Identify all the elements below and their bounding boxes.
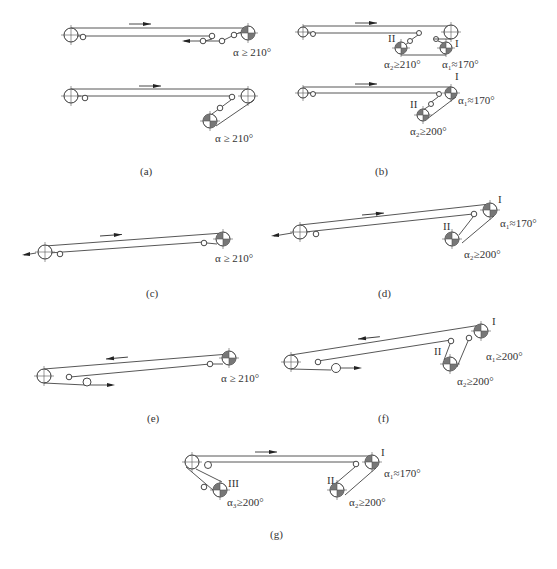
- angle-label: α ≥ 210°: [215, 252, 253, 264]
- panel-caption: (f): [378, 412, 389, 425]
- idler-icon: [82, 95, 88, 101]
- belt-direction-arrow-icon: [22, 252, 30, 256]
- belt-direction-arrow-icon: [107, 383, 115, 387]
- idler-icon: [408, 39, 413, 44]
- alpha2-label: α₂≥210°: [384, 58, 421, 70]
- tail-pulley-icon: [182, 452, 202, 472]
- panel-c: α ≥ 210° (c): [22, 229, 253, 300]
- drive-pulley-icon: [219, 348, 239, 368]
- alpha1-label: α₁≈170°: [458, 94, 495, 106]
- drive-III-label: III: [228, 477, 239, 489]
- idler-icon: [466, 335, 472, 341]
- belt-direction-arrow-icon: [100, 232, 122, 238]
- belt-direction-arrow-icon: [271, 233, 279, 237]
- idler-icon: [311, 32, 316, 37]
- drive-pulley-I-icon: [480, 200, 500, 220]
- drive-pulley-I-icon: [362, 452, 382, 472]
- panel-a-bottom-conveyor: α ≥ 210°: [61, 84, 258, 144]
- idler-icon: [80, 34, 86, 40]
- panel-a: α ≥ 210° α ≥ 210° (a): [61, 22, 271, 178]
- panel-d: I II α₁≈170° α₂≥200° (d): [271, 193, 537, 300]
- panel-e: α ≥ 210° (e): [34, 348, 259, 425]
- idler-icon: [201, 240, 207, 246]
- idler-icon: [311, 92, 316, 97]
- drive-I-label: I: [492, 315, 496, 327]
- alpha3-label: α₃≥200°: [227, 496, 264, 508]
- panel-caption: (g): [270, 528, 283, 541]
- drive-II-label: II: [434, 345, 442, 357]
- drive-pulley-icon: [213, 229, 233, 249]
- idler-icon: [437, 92, 442, 97]
- idler-icon: [200, 38, 206, 44]
- panel-caption: (d): [378, 287, 391, 300]
- idler-icon: [209, 33, 215, 39]
- panel-caption: (e): [147, 412, 160, 425]
- drive-II-label: II: [443, 220, 451, 232]
- drive-I-label: I: [455, 70, 459, 82]
- belt-direction-arrow-icon: [139, 84, 161, 88]
- idler-icon: [313, 231, 319, 237]
- idler-icon: [315, 359, 321, 365]
- snub-pulley-icon: [83, 378, 91, 386]
- idler-icon: [217, 105, 223, 111]
- idler-icon: [219, 38, 225, 44]
- idler-icon: [66, 374, 72, 380]
- alpha1-label: α₁≥200°: [486, 350, 523, 362]
- drive-I-label: I: [455, 37, 459, 49]
- idler-icon: [417, 31, 422, 36]
- angle-label: α ≥ 210°: [221, 372, 259, 384]
- snub-pulley-icon: [332, 364, 341, 373]
- drive-II-label: II: [327, 474, 335, 486]
- belt-direction-arrow-icon: [354, 366, 362, 370]
- idler-icon: [57, 251, 63, 257]
- idler-icon: [205, 462, 212, 469]
- angle-label: α ≥ 210°: [233, 46, 271, 58]
- panel-caption: (c): [146, 287, 159, 300]
- belt-direction-arrow-icon: [106, 355, 128, 361]
- drive-pulley-icon: [238, 23, 258, 43]
- alpha1-label: α₁≈170°: [500, 217, 537, 229]
- alpha2-label: α₂≥200°: [410, 125, 447, 137]
- idler-icon: [471, 211, 477, 217]
- panel-caption: (b): [375, 165, 388, 178]
- tail-pulley-icon: [290, 222, 310, 242]
- tail-pulley-icon: [35, 242, 55, 262]
- drive-pulley-I-icon: [471, 321, 491, 341]
- drive-II-label: II: [388, 32, 396, 44]
- belt-direction-arrow-icon: [182, 39, 190, 43]
- alpha2-label: α₂≥200°: [464, 248, 501, 260]
- drive-pulley-II-icon: [440, 354, 460, 374]
- panel-a-top-conveyor: α ≥ 210°: [61, 22, 271, 58]
- idler-icon: [231, 32, 237, 38]
- panel-b: II I α₂≥210° α₁≈170° I II α₁≈170° α₂≥200…: [295, 21, 495, 178]
- panel-caption: (a): [140, 165, 153, 178]
- drive-pulley-II-icon: [442, 229, 462, 249]
- idler-icon: [229, 94, 235, 100]
- idler-icon: [429, 102, 434, 107]
- belt-direction-arrow-icon: [355, 21, 377, 25]
- panel-g: I II III α₁≈170° α₂≥200° α₃≥200° (g): [182, 446, 421, 541]
- conveyor-drive-arrangements-figure: α ≥ 210° α ≥ 210° (a): [0, 0, 557, 569]
- drive-I-label: I: [381, 446, 385, 458]
- angle-label: α ≥ 210°: [215, 132, 253, 144]
- belt-direction-arrow-icon: [358, 335, 380, 341]
- alpha2-label: α₂≥200°: [457, 375, 494, 387]
- belt-direction-arrow-icon: [255, 450, 277, 454]
- panel-b-top-conveyor: II I α₂≥210° α₁≈170°: [295, 21, 479, 70]
- alpha2-label: α₂≥200°: [349, 496, 386, 508]
- belt-direction-arrow-icon: [355, 82, 377, 86]
- drive-I-label: I: [498, 193, 502, 205]
- idler-icon: [207, 361, 213, 367]
- belt-direction-arrow-icon: [129, 22, 151, 26]
- drive-pulley-icon: [200, 111, 220, 131]
- drive-II-label: II: [410, 98, 418, 110]
- idler-icon: [201, 484, 207, 490]
- alpha1-label: α₁≈170°: [442, 58, 479, 70]
- idler-icon: [448, 338, 454, 344]
- panel-f: I II α₁≥200° α₂≥200° (f): [281, 315, 523, 425]
- idler-icon: [353, 461, 359, 467]
- panel-b-bottom-conveyor: I II α₁≈170° α₂≥200°: [295, 70, 495, 137]
- alpha1-label: α₁≈170°: [384, 467, 421, 479]
